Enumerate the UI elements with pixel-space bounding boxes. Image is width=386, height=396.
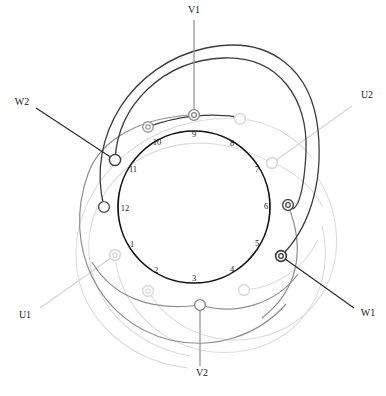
stator-winding-diagram: 1 2 3 4 5 6 7 8 9 10 11 12 (0, 0, 386, 396)
slot-label-7: 7 (255, 164, 259, 174)
v1-terminal-node[interactable] (189, 110, 200, 121)
terminal-label-u1: U1 (19, 309, 31, 320)
slot-label-12: 12 (121, 203, 130, 213)
w-node-slot10[interactable] (143, 122, 153, 132)
terminal-label-u2: U2 (361, 89, 373, 100)
v2-terminal-node[interactable] (195, 300, 206, 311)
u-node-slot4[interactable] (239, 285, 250, 296)
u-node-slot8[interactable] (235, 114, 246, 125)
slot-label-5: 5 (255, 238, 259, 248)
slot-label-10: 10 (153, 137, 162, 147)
w1-terminal-node[interactable] (276, 251, 287, 262)
phase-w-arc-outer (100, 45, 319, 256)
terminal-label-v2: V2 (196, 367, 208, 378)
phase-u-arc-connector-u2 (272, 163, 322, 206)
u1-terminal-node[interactable] (110, 250, 121, 261)
slot-label-2: 2 (154, 265, 158, 275)
phase-v-lead-lines (194, 20, 200, 366)
phase-w-endwinding-group (100, 45, 319, 256)
w-node-slot12[interactable] (99, 202, 110, 213)
slot-label-3: 3 (192, 273, 196, 283)
v-node-slot6[interactable] (283, 200, 294, 211)
phase-v-endwinding-group (80, 115, 298, 343)
w2-terminal-node[interactable] (109, 154, 120, 165)
winding-diagram-canvas: 1 2 3 4 5 6 7 8 9 10 11 12 (0, 0, 386, 396)
stator-bore-circle (118, 131, 270, 283)
w2-lead-line (36, 108, 115, 160)
terminal-labels-group: V1 V2 W1 W2 U1 U2 (15, 4, 375, 378)
u2-lead-line (272, 106, 352, 163)
slot-label-1: 1 (130, 239, 134, 249)
u2-terminal-node[interactable] (267, 158, 278, 169)
slot-label-8: 8 (230, 138, 234, 148)
terminal-label-w1: W1 (361, 307, 375, 318)
slot-label-9: 9 (192, 129, 196, 139)
slot-label-6: 6 (264, 201, 268, 211)
phase-u-arc-connector-top (240, 119, 312, 158)
slot-label-11: 11 (129, 164, 137, 174)
terminal-label-w2: W2 (15, 96, 29, 107)
phase-u-arc-right (148, 178, 337, 340)
terminal-label-v1: V1 (188, 4, 200, 15)
u-node-slot2[interactable] (143, 286, 154, 297)
phase-v-arc-bottom-inner (92, 262, 200, 307)
